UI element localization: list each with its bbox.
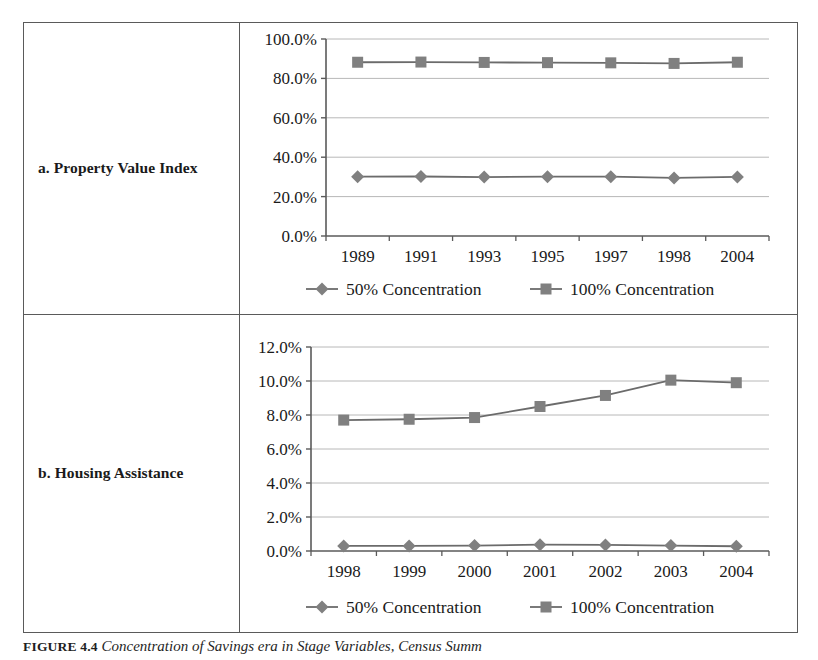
y-axis-tick-label: 60.0% <box>273 109 317 128</box>
square-marker <box>732 57 743 68</box>
x-axis-tick-label: 2000 <box>458 562 492 581</box>
square-marker <box>352 57 363 68</box>
square-marker <box>338 415 349 426</box>
diamond-marker <box>468 539 481 552</box>
square-marker <box>731 377 742 388</box>
table-row: a. Property Value Index 0.0%20.0%40.0%60… <box>24 23 797 314</box>
square-marker <box>542 57 553 68</box>
y-axis-tick-label: 8.0% <box>267 406 302 425</box>
square-marker <box>600 390 611 401</box>
diamond-marker <box>599 538 612 551</box>
diamond-marker <box>414 170 427 183</box>
diamond-marker <box>478 171 491 184</box>
diamond-marker <box>316 283 329 296</box>
x-axis-tick-label: 1991 <box>404 247 438 266</box>
x-axis-tick-label: 2003 <box>654 562 688 581</box>
diamond-marker <box>604 170 617 183</box>
x-axis-tick-label: 2004 <box>720 247 755 266</box>
x-axis-tick-label: 2002 <box>588 562 622 581</box>
diamond-marker <box>664 539 677 552</box>
square-marker <box>469 412 480 423</box>
figure-caption: FIGURE 4.4 Concentration of Savings era … <box>23 638 818 655</box>
figure-caption-label: FIGURE 4.4 <box>23 639 98 654</box>
diamond-marker <box>316 601 329 614</box>
chart-property-value-index: 0.0%20.0%40.0%60.0%80.0%100.0%1989199119… <box>240 23 796 312</box>
y-axis-tick-label: 40.0% <box>273 148 317 167</box>
legend-item: 100% Concentration <box>530 597 715 617</box>
diamond-marker <box>668 171 681 184</box>
square-marker <box>479 57 490 68</box>
diamond-marker <box>731 170 744 183</box>
series-line <box>344 380 737 420</box>
x-axis-tick-label: 1995 <box>531 247 565 266</box>
figure-table-frame: a. Property Value Index 0.0%20.0%40.0%60… <box>23 22 798 633</box>
chart-housing-assistance: 0.0%2.0%4.0%6.0%8.0%10.0%12.0%1998199920… <box>240 315 796 630</box>
diamond-marker <box>351 170 364 183</box>
square-marker <box>541 284 552 295</box>
y-axis-tick-label: 80.0% <box>273 69 317 88</box>
y-axis-tick-label: 0.0% <box>282 227 317 246</box>
y-axis-tick-label: 20.0% <box>273 188 317 207</box>
square-marker <box>669 58 680 69</box>
legend-item: 100% Concentration <box>530 279 715 299</box>
row-label-cell-b: b. Housing Assistance <box>24 315 240 632</box>
x-axis-tick-label: 2004 <box>719 562 754 581</box>
square-marker <box>535 401 546 412</box>
table-row: b. Housing Assistance 0.0%2.0%4.0%6.0%8.… <box>24 314 797 632</box>
diamond-marker <box>541 170 554 183</box>
legend-label: 50% Concentration <box>346 597 482 617</box>
y-axis-tick-label: 0.0% <box>267 542 302 561</box>
chart-cell-housing-assistance: 0.0%2.0%4.0%6.0%8.0%10.0%12.0%1998199920… <box>240 315 797 632</box>
figure-caption-text: Concentration of Savings era in Stage Va… <box>102 638 482 654</box>
x-axis-tick-label: 1997 <box>594 247 629 266</box>
x-axis-tick-label: 1989 <box>341 247 375 266</box>
y-axis-tick-label: 12.0% <box>258 338 302 357</box>
y-axis-tick-label: 10.0% <box>258 372 302 391</box>
legend-item: 50% Concentration <box>306 279 482 299</box>
x-axis-tick-label: 1998 <box>327 562 361 581</box>
y-axis-tick-label: 2.0% <box>267 508 302 527</box>
row-label-housing-assistance: b. Housing Assistance <box>38 463 184 483</box>
row-label-cell-a: a. Property Value Index <box>24 23 240 314</box>
x-axis-tick-label: 1998 <box>657 247 691 266</box>
x-axis-tick-label: 1993 <box>467 247 501 266</box>
y-axis-tick-label: 4.0% <box>267 474 302 493</box>
row-label-property-value-index: a. Property Value Index <box>38 158 198 178</box>
square-marker <box>665 375 676 386</box>
chart-cell-property-value-index: 0.0%20.0%40.0%60.0%80.0%100.0%1989199119… <box>240 23 797 314</box>
y-axis-tick-label: 6.0% <box>267 440 302 459</box>
legend-label: 50% Concentration <box>346 279 482 299</box>
square-marker <box>415 57 426 68</box>
square-marker <box>605 57 616 68</box>
legend-label: 100% Concentration <box>570 279 715 299</box>
x-axis-tick-label: 2001 <box>523 562 557 581</box>
diamond-marker <box>534 538 547 551</box>
legend-label: 100% Concentration <box>570 597 715 617</box>
figure-container: a. Property Value Index 0.0%20.0%40.0%60… <box>0 0 818 660</box>
square-marker <box>541 602 552 613</box>
square-marker <box>404 414 415 425</box>
y-axis-tick-label: 100.0% <box>265 30 317 49</box>
x-axis-tick-label: 1999 <box>392 562 426 581</box>
legend-item: 50% Concentration <box>306 597 482 617</box>
